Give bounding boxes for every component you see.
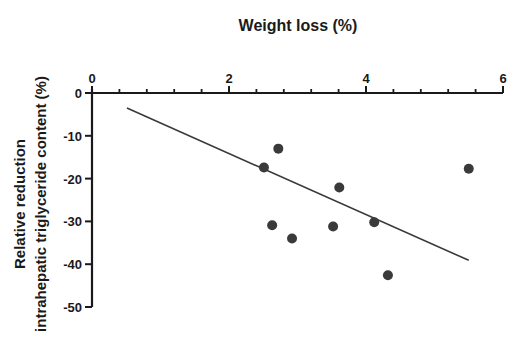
data-point: [328, 222, 338, 232]
x-tick-label: 4: [362, 71, 370, 86]
y-tick-label: -10: [63, 129, 82, 144]
y-tick-label: -20: [63, 172, 82, 187]
data-point: [334, 183, 344, 193]
regression-line: [127, 108, 469, 260]
y-tick-label: -40: [63, 257, 82, 272]
data-point: [273, 144, 283, 154]
regression-line-segment: [127, 108, 469, 260]
y-axis-label-line-2: intrahepatic triglyceride content (%): [32, 76, 49, 332]
y-tick-label: -50: [63, 300, 82, 315]
x-tick-label: 0: [88, 71, 95, 86]
data-point: [464, 164, 474, 174]
y-tick-label: 0: [75, 86, 82, 101]
data-point: [383, 270, 393, 280]
data-points: [259, 144, 474, 281]
x-tick-label: 2: [225, 71, 232, 86]
chart-title: Weight loss (%): [239, 17, 358, 34]
data-point: [259, 162, 269, 172]
x-tick-label: 6: [499, 71, 506, 86]
y-tick-label: -30: [63, 214, 82, 229]
tick-labels: 02460-10-20-30-40-50: [63, 71, 506, 315]
scatter-chart: Weight loss (%) Relative reduction intra…: [0, 0, 521, 358]
y-axis-label-line-1: Relative reduction: [11, 139, 28, 269]
data-point: [369, 217, 379, 227]
y-axis-label: Relative reduction intrahepatic triglyce…: [11, 76, 49, 332]
axes: [85, 86, 503, 307]
data-point: [267, 220, 277, 230]
data-point: [287, 234, 297, 244]
